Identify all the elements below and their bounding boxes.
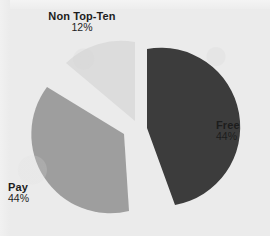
pie-slice-pay[interactable] — [31, 87, 129, 213]
slice-label-pay: Pay 44% — [8, 181, 29, 205]
slice-label-free-percent: 44% — [216, 131, 240, 143]
slice-label-non-top-ten: Non Top-Ten 12% — [36, 10, 128, 34]
slice-label-pay-percent: 44% — [8, 193, 29, 205]
pie-chart-figure: Non Top-Ten 12% Free 44% Pay 44% — [0, 0, 270, 236]
pie-chart-svg — [0, 0, 270, 236]
slice-label-free: Free 44% — [216, 119, 240, 143]
slice-label-non-top-ten-percent: 12% — [36, 22, 128, 34]
